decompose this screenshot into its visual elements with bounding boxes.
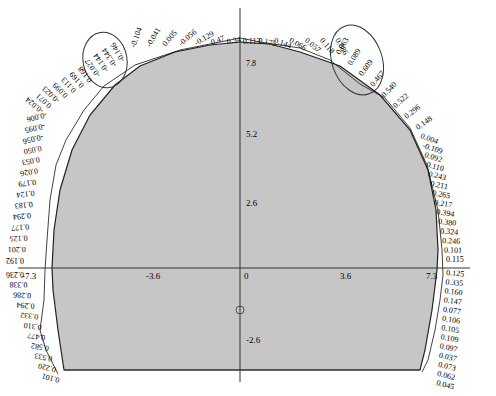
value-label: 0.057 <box>303 36 323 54</box>
value-label: 0.026 <box>19 166 38 178</box>
value-label: -0.104 <box>128 26 144 49</box>
value-label: 0.296 <box>402 103 422 121</box>
value-label: 0.332 <box>20 311 39 322</box>
value-label: 0.179 <box>18 177 37 188</box>
value-label: 0.177 <box>11 222 30 232</box>
value-label: 0.540 <box>380 80 399 99</box>
y-tick-label: 5.2 <box>246 129 257 139</box>
value-label: 0.201 <box>8 245 26 254</box>
tunnel-diagram: -7.3 -3.6 0 3.6 7.3 5.2 2.6 -2.6 7.8 -0.… <box>0 0 496 396</box>
value-label: 0.294 <box>16 300 35 310</box>
value-label: 0.101 <box>444 245 462 254</box>
value-label: 0.183 <box>14 200 33 211</box>
value-label: 0.294 <box>13 211 32 221</box>
value-label: 0.310 <box>23 321 42 332</box>
value-label: 0.246 <box>442 236 460 246</box>
value-label: 0.522 <box>391 91 410 110</box>
value-label: 0.005 <box>160 28 178 48</box>
x-tick-label: 7.3 <box>426 271 438 281</box>
value-label: 0.582 <box>30 341 49 353</box>
value-label: 0.125 <box>9 234 27 244</box>
x-tick-label: -3.6 <box>146 271 161 281</box>
value-label: 0.115 <box>446 255 464 264</box>
value-label: 0.148 <box>414 114 434 132</box>
value-label: 0.124 <box>16 189 35 200</box>
y-tick-label: -2.6 <box>246 335 261 345</box>
value-label: 0.609 <box>357 58 375 78</box>
value-label: 0.338 <box>9 280 27 289</box>
value-label: -0.041 <box>144 26 162 48</box>
x-tick-label: 3.6 <box>340 271 352 281</box>
value-label: 0.236 <box>6 270 24 279</box>
value-label: 0.477 <box>27 331 46 343</box>
y-tick-label: 2.6 <box>246 198 258 208</box>
value-label: 0.533 <box>34 351 53 364</box>
diagram-canvas: -7.3 -3.6 0 3.6 7.3 5.2 2.6 -2.6 7.8 -0.… <box>0 0 496 396</box>
crown-label: 7.8 <box>246 59 256 68</box>
value-label: 0.286 <box>13 290 31 300</box>
value-label: 0.053 <box>21 155 40 167</box>
x-tick-label: 0 <box>244 271 249 281</box>
value-label: 0.192 <box>6 256 24 265</box>
value-label: 0.220 <box>37 361 57 374</box>
